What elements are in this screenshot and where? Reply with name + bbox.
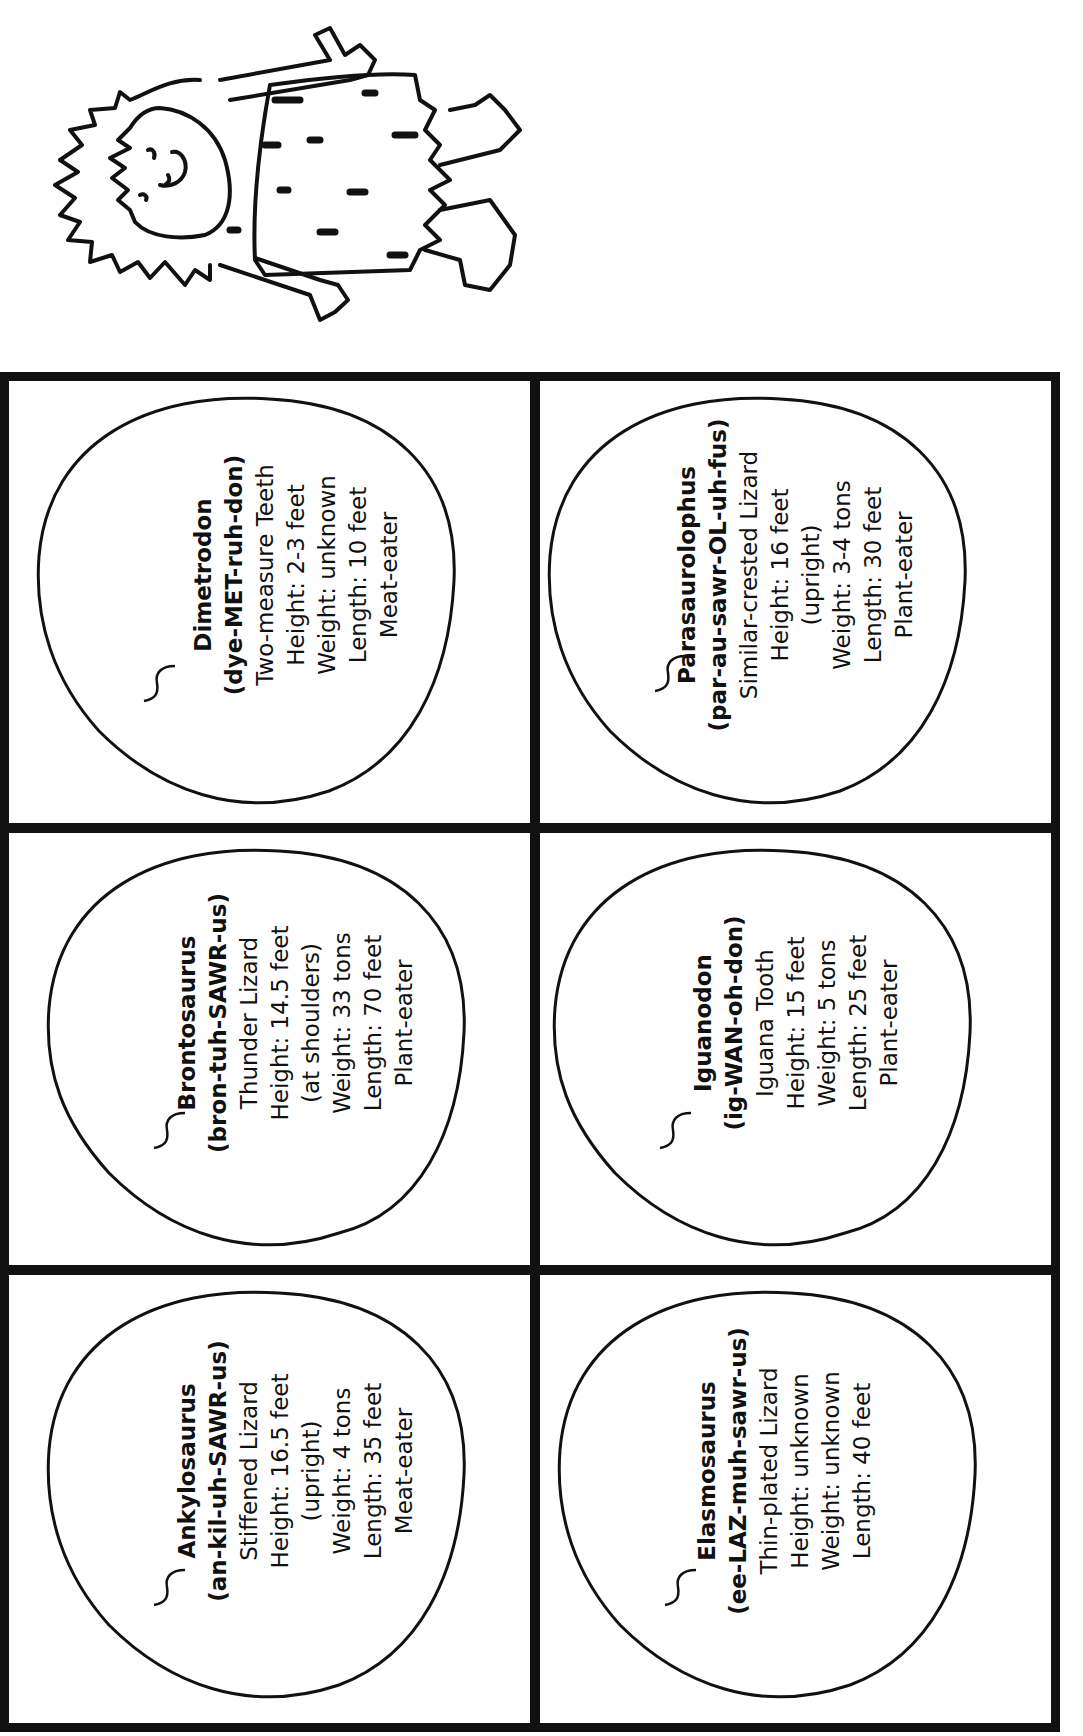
dinosaur-card-ankylosaurus[interactable]: Ankylosaurus (an-kil-uh-SAWR-us) Stiffen… — [9, 1275, 530, 1736]
dinosaur-name: Parasaurolophus — [672, 419, 703, 732]
dinosaur-meaning: Similar-crested Lizard — [734, 419, 765, 732]
dinosaur-name: Ankylosaurus — [172, 1340, 203, 1601]
dinosaur-name: Iguanodon — [687, 915, 718, 1130]
dinosaur-pronunciation: (ig-WAN-oh-don) — [718, 915, 749, 1130]
dinosaur-stat: Height: 15 feet — [780, 915, 811, 1130]
dinosaur-stat: Weight: unknown — [311, 455, 342, 695]
dinosaur-stat: (upright) — [796, 419, 827, 732]
grid-divider-horizontal-1 — [9, 823, 1051, 833]
dinosaur-stat: Weight: 3-4 tons — [827, 419, 858, 732]
dinosaur-name: Brontosaurus — [172, 893, 203, 1153]
grid-divider-horizontal-2 — [9, 1265, 1051, 1275]
dinosaur-card-elasmosaurus[interactable]: Elasmosaurus (ee-LAZ-muh-sawr-us) Thin-p… — [540, 1275, 1051, 1736]
dinosaur-card-grid: Dimetrodon (dye-MET-ruh-don) Two-measure… — [0, 372, 1060, 1732]
grid-divider-vertical — [530, 381, 540, 1723]
dinosaur-pronunciation: (ee-LAZ-muh-sawr-us) — [723, 1327, 754, 1615]
dinosaur-stat: Height: unknown — [785, 1327, 816, 1615]
dinosaur-card-dimetrodon[interactable]: Dimetrodon (dye-MET-ruh-don) Two-measure… — [9, 381, 530, 823]
dinosaur-meaning: Stiffened Lizard — [234, 1340, 265, 1601]
dinosaur-stat: Length: 40 feet — [847, 1327, 878, 1615]
dinosaur-stat: Length: 25 feet — [842, 915, 873, 1130]
dinosaur-diet: Plant-eater — [873, 915, 904, 1130]
dinosaur-pronunciation: (bron-tuh-SAWR-us) — [203, 893, 234, 1153]
dinosaur-diet: Meat-eater — [389, 1340, 420, 1601]
dinosaur-diet: Meat-eater — [373, 455, 404, 695]
dinosaur-pronunciation: (par-au-sawr-OL-uh-fus) — [703, 419, 734, 732]
dinosaur-stat: Length: 30 feet — [858, 419, 889, 732]
dinosaur-stat: Length: 10 feet — [342, 455, 373, 695]
dinosaur-stat: Weight: 4 tons — [327, 1340, 358, 1601]
dinosaur-card-brontosaurus[interactable]: Brontosaurus (bron-tuh-SAWR-us) Thunder … — [9, 833, 530, 1265]
dinosaur-stat: Height: 14.5 feet — [265, 893, 296, 1153]
dinosaur-meaning: Iguana Tooth — [749, 915, 780, 1130]
dinosaur-pronunciation: (an-kil-uh-SAWR-us) — [203, 1340, 234, 1601]
dinosaur-name: Dimetrodon — [187, 455, 218, 695]
dinosaur-stat: Length: 70 feet — [358, 893, 389, 1153]
dinosaur-stat: Weight: 5 tons — [811, 915, 842, 1130]
caveman-illustration-icon — [20, 0, 540, 340]
dinosaur-card-parasaurolophus[interactable]: Parasaurolophus (par-au-sawr-OL-uh-fus) … — [540, 381, 1051, 823]
dinosaur-stat: (upright) — [296, 1340, 327, 1601]
dinosaur-stat: Height: 2-3 feet — [280, 455, 311, 695]
dinosaur-diet: Plant-eater — [389, 893, 420, 1153]
dinosaur-pronunciation: (dye-MET-ruh-don) — [218, 455, 249, 695]
dinosaur-stat: Length: 35 feet — [358, 1340, 389, 1601]
dinosaur-meaning: Thin-plated Lizard — [754, 1327, 785, 1615]
dinosaur-stat: (at shoulders) — [296, 893, 327, 1153]
dinosaur-meaning: Two-measure Teeth — [249, 455, 280, 695]
dinosaur-stat: Height: 16 feet — [765, 419, 796, 732]
dinosaur-stat: Height: 16.5 feet — [265, 1340, 296, 1601]
dinosaur-stat: Weight: 33 tons — [327, 893, 358, 1153]
dinosaur-name: Elasmosaurus — [692, 1327, 723, 1615]
dinosaur-meaning: Thunder Lizard — [234, 893, 265, 1153]
dinosaur-card-iguanodon[interactable]: Iguanodon (ig-WAN-oh-don) Iguana Tooth H… — [540, 833, 1051, 1265]
dinosaur-stat: Weight: unknown — [816, 1327, 847, 1615]
dinosaur-diet: Plant-eater — [889, 419, 920, 732]
